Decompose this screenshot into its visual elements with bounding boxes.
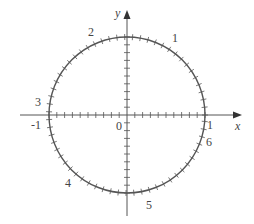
axes — [20, 10, 242, 216]
radian-label-5: 5 — [146, 198, 152, 212]
radian-label-3: 3 — [35, 95, 41, 109]
tick-mark — [202, 107, 208, 108]
radian-label-2: 2 — [88, 25, 94, 39]
tick-mark — [47, 104, 53, 105]
origin-label: 0 — [116, 119, 122, 133]
radian-label-4: 4 — [65, 176, 71, 190]
tick-mark — [117, 35, 118, 41]
tick-mark — [140, 35, 141, 41]
x-neg-one-label: -1 — [31, 118, 41, 132]
y-axis-arrow-icon — [124, 10, 131, 19]
tick-mark — [118, 190, 119, 196]
x-pos-one-label: 1 — [207, 118, 213, 132]
unit-circle-diagram: y x 0 -1 1 1 2 3 4 5 6 — [0, 0, 254, 224]
radian-label-1: 1 — [172, 31, 178, 45]
tick-mark — [141, 189, 142, 195]
tick-mark — [134, 190, 135, 196]
y-axis-label: y — [114, 6, 121, 20]
x-axis-arrow-icon — [233, 112, 242, 119]
x-axis-label: x — [234, 119, 241, 133]
tick-mark — [201, 129, 207, 130]
radian-label-6: 6 — [206, 135, 212, 149]
tick-mark — [47, 127, 53, 128]
